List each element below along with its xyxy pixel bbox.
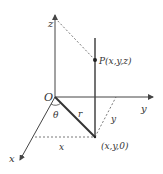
y-length-label: y <box>110 114 117 124</box>
dashed-z-to-p <box>55 18 95 60</box>
x-length-label: x <box>59 142 64 152</box>
theta-label: θ <box>53 110 59 120</box>
x-axis-label: x <box>9 153 15 164</box>
radius-label: r <box>78 109 83 119</box>
point-projection <box>94 136 96 138</box>
point-p-label: P(x,y,z) <box>98 56 132 66</box>
origin-label: O <box>44 91 53 104</box>
y-axis-label: y <box>140 103 147 114</box>
z-axis-label: z <box>47 18 54 29</box>
point-p <box>93 58 97 62</box>
x-axis <box>20 97 55 160</box>
projection-label: (x,y,0) <box>101 141 129 151</box>
cylindrical-coordinates-diagram: z O y x θ r P(x,y,z) (x,y,0) x y <box>0 0 163 174</box>
